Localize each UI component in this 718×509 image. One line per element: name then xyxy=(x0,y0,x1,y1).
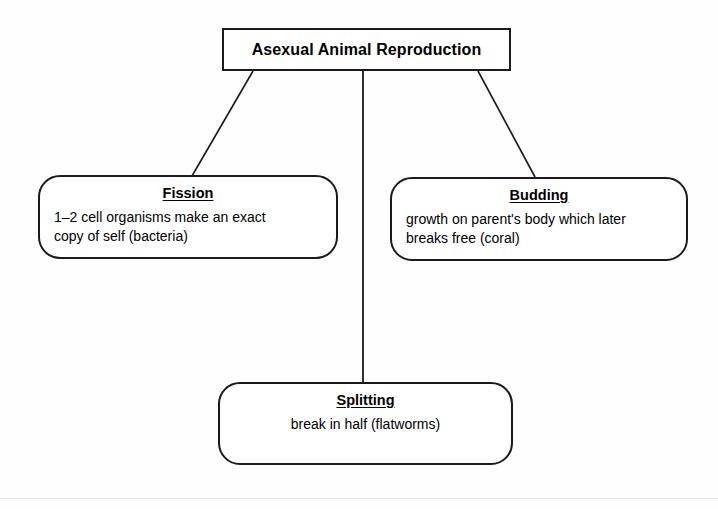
page-edge-line xyxy=(0,498,718,499)
connector-root-to-fission xyxy=(192,71,253,176)
root-node-asexual-animal-reproduction: Asexual Animal Reproduction xyxy=(222,28,511,71)
diagram-canvas: Asexual Animal Reproduction Fission 1–2 … xyxy=(0,0,718,509)
child-node-fission-heading: Fission xyxy=(54,185,322,201)
child-node-splitting: Splitting break in half (flatworms) xyxy=(218,382,513,465)
child-node-budding-heading: Budding xyxy=(406,187,672,203)
child-node-splitting-heading: Splitting xyxy=(234,392,497,408)
connector-root-to-budding xyxy=(478,71,535,177)
root-node-title: Asexual Animal Reproduction xyxy=(252,41,482,59)
child-node-fission: Fission 1–2 cell organisms make an exact… xyxy=(38,175,338,259)
child-node-budding-body: growth on parent's body which later brea… xyxy=(406,210,672,247)
child-node-fission-body: 1–2 cell organisms make an exact copy of… xyxy=(54,208,322,245)
child-node-splitting-body: break in half (flatworms) xyxy=(234,415,497,434)
child-node-budding: Budding growth on parent's body which la… xyxy=(390,177,688,261)
